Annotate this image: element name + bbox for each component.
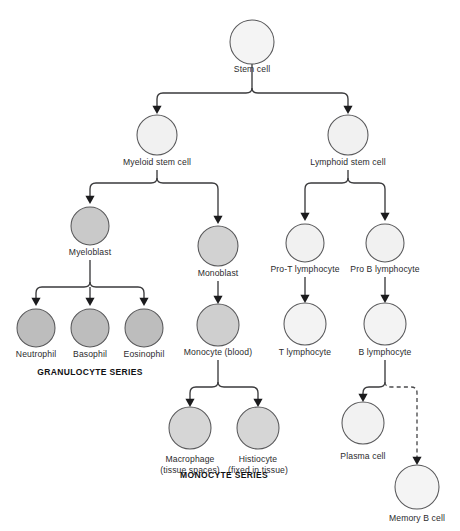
cell-circle-lymphoid-stem[interactable]: [328, 115, 368, 155]
cell-label-line: Lymphoid stem cell: [310, 157, 385, 167]
cell-label-line: Eosinophil: [124, 349, 165, 359]
cell-eosinophil[interactable]: Eosinophil: [124, 309, 165, 359]
hematopoiesis-svg-canvas: Stem cellMyeloid stem cellLymphoid stem …: [0, 0, 460, 531]
cell-label-line: Monoblast: [198, 268, 239, 278]
cell-neutrophil[interactable]: Neutrophil: [16, 309, 56, 359]
cell-circle-pro-t-lymphocyte[interactable]: [286, 224, 324, 262]
cell-label-t-lymphocyte: T lymphocyte: [279, 347, 331, 357]
cell-circle-myeloblast[interactable]: [71, 207, 109, 245]
cell-label-line: Myeloblast: [69, 247, 112, 257]
cell-label-b-lymphocyte: B lymphocyte: [358, 347, 411, 357]
cell-circle-pro-b-lymphocyte[interactable]: [366, 224, 404, 262]
series-label-monocyte-series: MONOCYTE SERIES: [180, 470, 268, 480]
cell-label-line: Pro-T lymphocyte: [270, 264, 339, 274]
cell-label-line: Monocyte (blood): [184, 347, 252, 357]
cell-circle-stem-cell[interactable]: [230, 20, 274, 64]
cell-circle-b-lymphocyte[interactable]: [364, 303, 406, 345]
cell-label-line: Basophil: [73, 349, 107, 359]
cell-circle-t-lymphocyte[interactable]: [284, 303, 326, 345]
cell-label-neutrophil: Neutrophil: [16, 349, 56, 359]
cell-circle-memory-b-cell[interactable]: [395, 465, 439, 509]
cell-label-memory-b-cell: Memory B cell: [389, 513, 445, 523]
cell-label-stem-cell: Stem cell: [234, 64, 270, 74]
series-label-granulocyte-series: GRANULOCYTE SERIES: [37, 367, 142, 377]
cell-circle-histiocyte[interactable]: [237, 407, 279, 449]
cell-label-line: B lymphocyte: [358, 347, 411, 357]
cell-monoblast[interactable]: Monoblast: [198, 226, 239, 278]
cell-circle-basophil[interactable]: [71, 309, 109, 347]
cell-circle-monocyte[interactable]: [197, 304, 239, 346]
cell-circle-plasma-cell[interactable]: [342, 402, 384, 444]
cell-label-pro-t-lymphocyte: Pro-T lymphocyte: [270, 264, 339, 274]
cell-label-line: Plasma cell: [340, 451, 385, 461]
hematopoiesis-diagram: Stem cellMyeloid stem cellLymphoid stem …: [0, 0, 460, 531]
cell-label-line: Macrophage: [166, 454, 215, 464]
cell-label-myeloblast: Myeloblast: [69, 247, 112, 257]
cell-label-line: T lymphocyte: [279, 347, 331, 357]
cell-stem-cell[interactable]: Stem cell: [230, 20, 274, 74]
cell-label-monoblast: Monoblast: [198, 268, 239, 278]
cell-label-eosinophil: Eosinophil: [124, 349, 165, 359]
cell-label-myeloid-stem: Myeloid stem cell: [123, 157, 191, 167]
cell-label-lymphoid-stem: Lymphoid stem cell: [310, 157, 385, 167]
cell-label-monocyte: Monocyte (blood): [184, 347, 252, 357]
cell-circle-myeloid-stem[interactable]: [137, 115, 177, 155]
cell-label-line: Stem cell: [234, 64, 270, 74]
cell-label-line: Memory B cell: [389, 513, 445, 523]
cell-circle-neutrophil[interactable]: [17, 309, 55, 347]
cell-circle-eosinophil[interactable]: [125, 309, 163, 347]
cell-label-line: Histiocyte: [239, 454, 278, 464]
cell-plasma-cell[interactable]: Plasma cell: [340, 402, 385, 461]
cell-label-plasma-cell: Plasma cell: [340, 451, 385, 461]
cell-circle-monoblast[interactable]: [198, 226, 238, 266]
cell-label-basophil: Basophil: [73, 349, 107, 359]
cell-label-line: Pro B lymphocyte: [350, 264, 419, 274]
cell-circle-macrophage[interactable]: [169, 407, 211, 449]
cell-label-pro-b-lymphocyte: Pro B lymphocyte: [350, 264, 419, 274]
cell-basophil[interactable]: Basophil: [71, 309, 109, 359]
cell-label-line: Myeloid stem cell: [123, 157, 191, 167]
cell-myeloblast[interactable]: Myeloblast: [69, 207, 112, 257]
cell-label-line: Neutrophil: [16, 349, 56, 359]
